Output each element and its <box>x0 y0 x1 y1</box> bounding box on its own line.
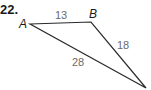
side-label-ab: 13 <box>55 9 67 21</box>
triangle-figure: A B 13 18 28 <box>0 0 151 90</box>
side-label-ac: 28 <box>72 56 84 68</box>
vertex-label-b: B <box>89 7 97 21</box>
triangle-shape <box>30 22 146 88</box>
diagram-canvas: 22. A B 13 18 28 <box>0 0 151 90</box>
side-label-bc: 18 <box>117 39 129 51</box>
vertex-label-a: A <box>18 17 27 31</box>
